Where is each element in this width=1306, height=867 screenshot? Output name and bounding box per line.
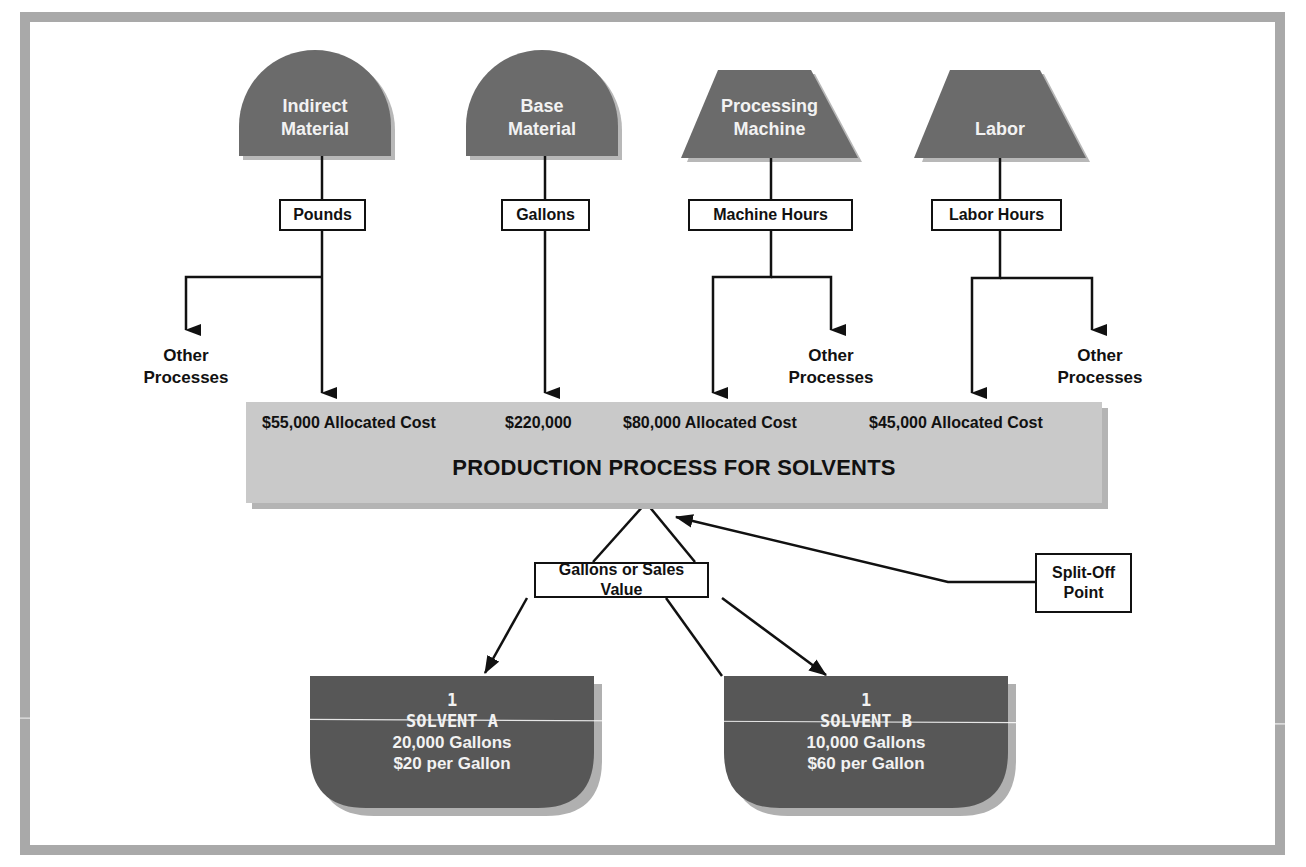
split-off-label: Point	[1064, 583, 1104, 603]
source-shape-labor	[914, 70, 1090, 162]
driver-box-labor-hours: Labor Hours	[931, 199, 1062, 231]
product-solvent-b: 1 SOLVENT B 10,000 Gallons $60 per Gallo…	[724, 690, 1008, 774]
product-number: 1	[724, 690, 1008, 711]
split-off-point-box: Split-Off Point	[1035, 553, 1132, 613]
allocated-cost-labor: $45,000 Allocated Cost	[869, 414, 1043, 432]
driver-label: Labor Hours	[949, 205, 1044, 225]
driver-label: Pounds	[293, 205, 352, 225]
source-label-indirect-material: IndirectMaterial	[239, 95, 391, 141]
product-name: SOLVENT B	[724, 711, 1008, 732]
scan-artifact-line	[0, 718, 1306, 724]
split-off-label: Split-Off	[1052, 563, 1115, 583]
split-basis-box: Gallons or Sales Value	[534, 562, 709, 598]
allocated-cost-indirect-material: $55,000 Allocated Cost	[262, 414, 436, 432]
product-number: 1	[310, 690, 594, 711]
source-label-processing-machine: ProcessingMachine	[681, 95, 858, 141]
other-processes-label-3: OtherProcesses	[1050, 345, 1150, 389]
other-processes-label-1: OtherProcesses	[136, 345, 236, 389]
product-solvent-a: 1 SOLVENT A 20,000 Gallons $20 per Gallo…	[310, 690, 594, 774]
driver-box-gallons: Gallons	[501, 199, 590, 231]
product-price: $60 per Gallon	[724, 753, 1008, 774]
allocated-cost-base-material: $220,000	[505, 414, 572, 432]
allocated-cost-processing-machine: $80,000 Allocated Cost	[623, 414, 797, 432]
driver-box-pounds: Pounds	[279, 199, 366, 231]
product-quantity: 20,000 Gallons	[310, 732, 594, 753]
driver-box-machine-hours: Machine Hours	[688, 199, 853, 231]
other-processes-label-2: OtherProcesses	[781, 345, 881, 389]
split-basis-label: Gallons or Sales Value	[536, 560, 707, 600]
source-label-base-material: BaseMaterial	[466, 95, 618, 141]
product-quantity: 10,000 Gallons	[724, 732, 1008, 753]
product-name: SOLVENT A	[310, 711, 594, 732]
source-label-labor: Labor	[914, 118, 1086, 141]
product-price: $20 per Gallon	[310, 753, 594, 774]
driver-label: Machine Hours	[713, 205, 828, 225]
driver-label: Gallons	[516, 205, 575, 225]
diagram-title: PRODUCTION PROCESS FOR SOLVENTS	[246, 455, 1102, 481]
